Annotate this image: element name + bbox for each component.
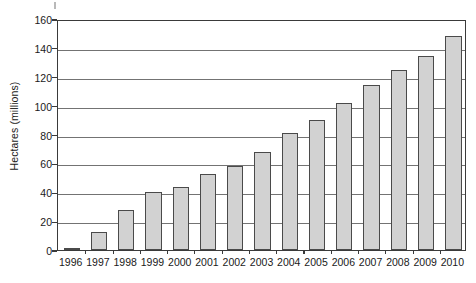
x-tick-mark (331, 250, 332, 254)
x-tick-mark (140, 250, 141, 254)
bar (64, 248, 80, 251)
bar-chart-figure: Hectares (millions) 02040608010012014016… (0, 0, 476, 283)
x-tick-label: 2003 (248, 256, 275, 268)
scan-artifact (54, 2, 56, 9)
x-tick-label: 2006 (330, 256, 357, 268)
x-tick-label: 2009 (412, 256, 439, 268)
bar (118, 210, 134, 250)
bar (336, 103, 352, 250)
bar (173, 187, 189, 251)
bar (445, 36, 461, 250)
bar (391, 70, 407, 251)
bar (91, 232, 107, 250)
x-tick-label: 2010 (439, 256, 466, 268)
x-tick-mark (440, 250, 441, 254)
x-tick-label: 2008 (384, 256, 411, 268)
x-tick-mark (385, 250, 386, 254)
x-tick-label: 1997 (84, 256, 111, 268)
bars-layer (58, 21, 465, 250)
x-tick-label: 2000 (166, 256, 193, 268)
x-tick-mark (358, 250, 359, 254)
bar (418, 56, 434, 250)
x-tick-mark (113, 250, 114, 254)
x-tick-mark (413, 250, 414, 254)
x-tick-mark (85, 250, 86, 254)
bar (363, 85, 379, 250)
x-tick-mark (194, 250, 195, 254)
x-tick-label: 2005 (302, 256, 329, 268)
x-tick-mark (276, 250, 277, 254)
x-tick-mark (167, 250, 168, 254)
x-axis-tick-labels: 1996199719981999200020012002200320042005… (57, 256, 466, 274)
x-tick-label: 1998 (112, 256, 139, 268)
y-axis-tick-marks (0, 20, 57, 251)
x-tick-label: 1996 (57, 256, 84, 268)
plot-area (57, 20, 466, 251)
bar (309, 120, 325, 250)
x-tick-label: 1999 (139, 256, 166, 268)
bar (254, 152, 270, 250)
x-tick-mark (222, 250, 223, 254)
x-tick-mark (249, 250, 250, 254)
x-tick-label: 2001 (193, 256, 220, 268)
bar (145, 192, 161, 250)
x-tick-mark (303, 250, 304, 254)
x-tick-label: 2007 (357, 256, 384, 268)
x-tick-label: 2002 (221, 256, 248, 268)
bar (200, 174, 216, 250)
x-tick-label: 2004 (275, 256, 302, 268)
bar (282, 133, 298, 250)
bar (227, 166, 243, 251)
